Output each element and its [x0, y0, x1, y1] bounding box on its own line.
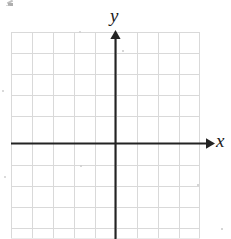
y-axis-group — [110, 30, 120, 239]
x-axis-arrowhead — [206, 138, 215, 148]
x-axis-label: x — [216, 131, 224, 150]
x-axis-group — [11, 138, 215, 148]
axis-lines — [0, 0, 231, 239]
y-axis-arrowhead — [110, 30, 120, 39]
coordinate-grid-figure: y x — [0, 0, 231, 239]
y-axis-label: y — [110, 6, 118, 25]
